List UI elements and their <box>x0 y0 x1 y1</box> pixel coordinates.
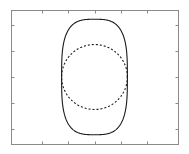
figure-background <box>0 0 189 154</box>
figure-container <box>0 0 189 154</box>
plot-canvas <box>0 0 189 154</box>
